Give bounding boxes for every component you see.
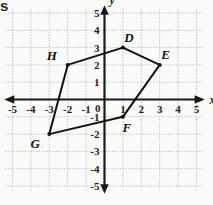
x-tick-label: 2 (139, 103, 145, 115)
y-axis-arrow-up (100, 5, 108, 15)
y-tick-label: -4 (90, 163, 100, 175)
y-axis-label: y (108, 0, 116, 7)
y-tick-label: 1 (94, 76, 100, 88)
vertex-label-d: D (123, 30, 134, 45)
vertex-label-f: F (122, 120, 132, 135)
coordinate-plane-svg: -5-4-3-2-11234554321-1-2-3-4-50 DEFGH xy (0, 0, 213, 205)
x-tick-label: -4 (26, 103, 36, 115)
vertex-point-g (47, 132, 51, 136)
x-tick-label: 5 (194, 103, 200, 115)
x-tick-label: 4 (175, 103, 181, 115)
y-tick-label: 5 (94, 7, 100, 19)
axis-lines (4, 5, 205, 194)
y-tick-label: 2 (94, 59, 100, 71)
x-tick-label: -3 (45, 103, 55, 115)
x-tick-label: -1 (82, 103, 91, 115)
vertex-label-h: H (46, 48, 58, 63)
x-tick-label: 3 (157, 103, 163, 115)
vertex-point-e (158, 63, 162, 67)
vertex-point-h (66, 63, 70, 67)
x-tick-label: -2 (63, 103, 73, 115)
y-tick-label: -2 (90, 128, 100, 140)
y-tick-label: 4 (94, 24, 100, 36)
y-axis-arrow-down (100, 184, 108, 194)
origin-label: 0 (95, 102, 101, 114)
x-axis-label: x (209, 93, 213, 107)
vertex-label-g: G (31, 136, 41, 151)
y-tick-label: -3 (90, 145, 100, 157)
coordinate-plane-figure: s -5-4-3-2-11234554321-1-2-3-4-50 DEFGH … (0, 0, 213, 205)
y-tick-label: 3 (94, 42, 100, 54)
vertex-point-d (121, 46, 125, 50)
y-tick-label: -5 (90, 180, 100, 192)
vertex-label-e: E (160, 47, 170, 62)
x-tick-label: -5 (8, 103, 18, 115)
vertex-point-f (121, 115, 125, 119)
